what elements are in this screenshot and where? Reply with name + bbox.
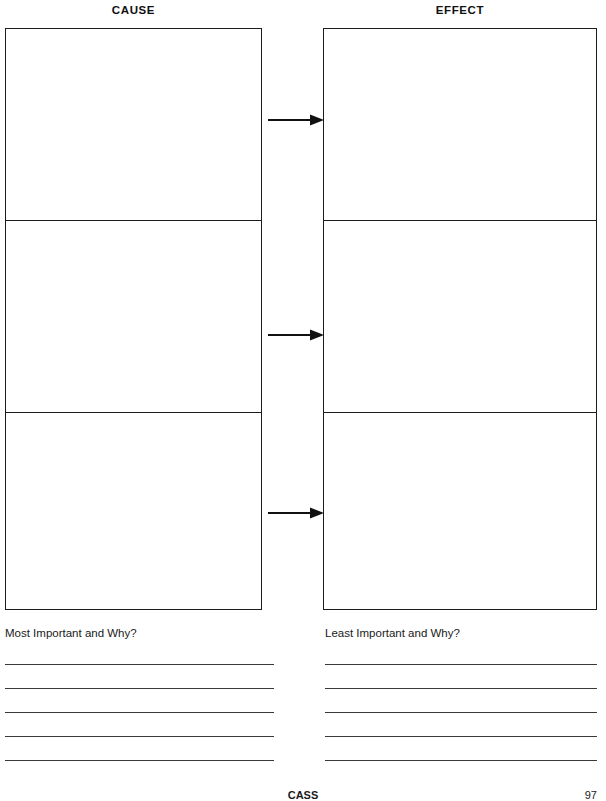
effect-cell-1[interactable] xyxy=(324,29,596,221)
cause-column-heading: CAUSE xyxy=(5,4,262,16)
most-important-answer-lines xyxy=(5,664,274,761)
answer-line[interactable] xyxy=(325,688,597,689)
arrow-right-icon xyxy=(268,328,324,342)
arrow-right-icon xyxy=(268,113,324,127)
answer-line[interactable] xyxy=(325,664,597,665)
cause-cell-3[interactable] xyxy=(6,413,261,609)
answer-line[interactable] xyxy=(5,664,274,665)
answer-line[interactable] xyxy=(325,736,597,737)
arrow-right-icon xyxy=(268,506,324,520)
answer-line[interactable] xyxy=(5,760,274,761)
effect-cell-2[interactable] xyxy=(324,221,596,413)
least-important-prompt: Least Important and Why? xyxy=(325,627,460,639)
cause-cell-1[interactable] xyxy=(6,29,261,221)
answer-line[interactable] xyxy=(5,736,274,737)
effect-box-grid xyxy=(323,28,597,610)
answer-line[interactable] xyxy=(5,688,274,689)
least-important-answer-lines xyxy=(325,664,597,761)
page-number: 97 xyxy=(585,789,597,801)
footer-label: CASS xyxy=(0,789,606,801)
most-important-prompt: Most Important and Why? xyxy=(5,627,137,639)
effect-column-heading: EFFECT xyxy=(323,4,597,16)
answer-line[interactable] xyxy=(325,760,597,761)
answer-line[interactable] xyxy=(5,712,274,713)
answer-line[interactable] xyxy=(325,712,597,713)
cause-cell-2[interactable] xyxy=(6,221,261,413)
cause-box-grid xyxy=(5,28,262,610)
effect-cell-3[interactable] xyxy=(324,413,596,609)
worksheet-page: CAUSE EFFECT Most Important and Why? Lea… xyxy=(0,0,606,801)
